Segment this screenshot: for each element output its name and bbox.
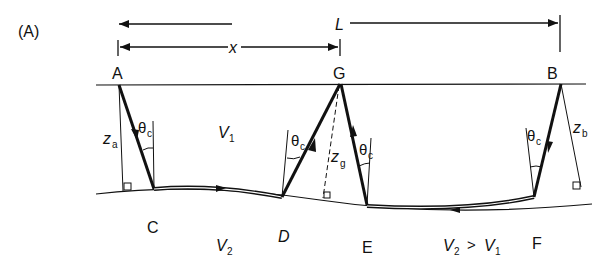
point-A-label: A: [112, 65, 123, 82]
point-C-label: C: [147, 219, 159, 236]
svg-text:c: c: [536, 136, 541, 147]
depth-zb: z b: [561, 84, 588, 189]
svg-text:b: b: [582, 128, 588, 139]
x-label: x: [228, 39, 238, 56]
svg-text:a: a: [112, 139, 118, 150]
point-G-label: G: [333, 65, 345, 82]
svg-text:c: c: [147, 128, 152, 139]
headwave-C-D: [154, 185, 282, 197]
svg-text:c: c: [368, 150, 373, 161]
svg-text:θ: θ: [138, 119, 146, 136]
L-label: L: [335, 16, 344, 33]
point-D-label: D: [278, 228, 290, 245]
svg-text:c: c: [300, 141, 305, 152]
depth-zg: z g: [323, 86, 346, 198]
svg-text:θ: θ: [359, 141, 367, 158]
angle-at-D: θ c: [282, 130, 305, 197]
svg-text:θ: θ: [291, 132, 299, 149]
point-F-label: F: [532, 235, 542, 252]
depth-za: z a: [102, 85, 131, 191]
svg-text:z: z: [102, 130, 111, 147]
svg-text:z: z: [330, 148, 339, 165]
layer-V2-label: V 2: [216, 237, 233, 257]
svg-text:1: 1: [229, 133, 235, 144]
point-B-label: B: [547, 65, 558, 82]
svg-text:θ: θ: [527, 127, 535, 144]
panel-label: (A): [18, 23, 39, 40]
angle-at-F: θ c: [526, 127, 542, 197]
point-E-label: E: [362, 239, 373, 256]
velocity-relation: V 2 > V 1: [443, 236, 501, 257]
svg-text:z: z: [572, 119, 581, 136]
refraction-diagram: (A) L x A B G C D E F z a θ c: [0, 0, 606, 266]
svg-text:>: >: [467, 236, 476, 253]
layer-V1-label: V 1: [218, 124, 235, 144]
svg-text:2: 2: [227, 246, 233, 257]
svg-text:2: 2: [454, 246, 460, 257]
dimension-x: x: [118, 39, 340, 56]
svg-text:1: 1: [495, 246, 501, 257]
svg-text:g: g: [340, 158, 346, 169]
